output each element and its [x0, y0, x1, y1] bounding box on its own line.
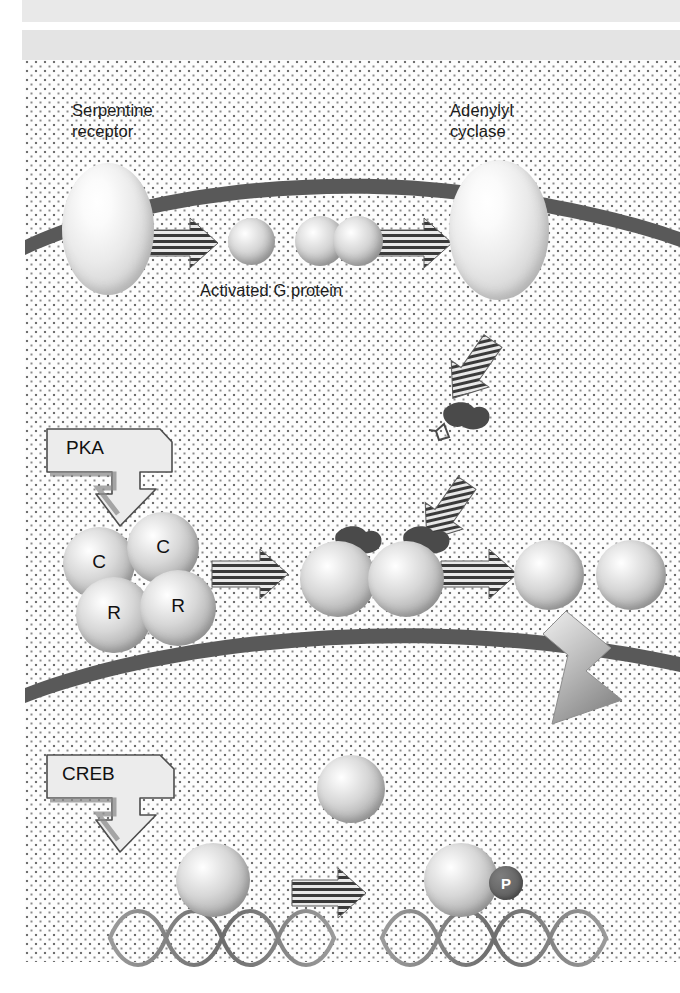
camp-molecule-free: [429, 402, 490, 440]
adenylyl-cyclase-body: [449, 160, 549, 300]
creb-callout: CREB: [44, 752, 180, 862]
adenylyl-cyclase-label: Adenylyl cyclase: [450, 100, 600, 142]
pka-c-subunit-left-label: C: [63, 551, 135, 573]
g-protein-gamma-subunit: [333, 216, 383, 266]
figure-canvas: C C R R P PKA CREB Serpentine receptor A…: [0, 0, 680, 993]
camp-bound-r-subunit-right: [368, 541, 444, 617]
serpentine-receptor-label: Serpentine receptor: [72, 100, 222, 142]
released-c-subunit-right: [596, 540, 666, 610]
pka-callout-shape: [44, 426, 174, 536]
phosphate-badge: P: [489, 866, 523, 900]
phospho-creb-protein: [424, 843, 498, 917]
pka-callout-label: PKA: [66, 437, 104, 459]
creb-callout-label: CREB: [62, 763, 115, 785]
pka-r-subunit-right-label: R: [140, 595, 216, 617]
camp-bound-r-subunit-left: [300, 541, 376, 617]
released-c-subunit-left: [514, 540, 584, 610]
activated-g-protein-label: Activated G protein: [200, 280, 440, 301]
creb-protein: [176, 843, 250, 917]
pka-callout: PKA: [44, 426, 174, 536]
nuclear-c-subunit: [317, 755, 385, 823]
pka-c-subunit-right-label: C: [127, 536, 199, 558]
g-protein-alpha-subunit: [228, 218, 275, 265]
serpentine-receptor-body: [62, 163, 154, 295]
